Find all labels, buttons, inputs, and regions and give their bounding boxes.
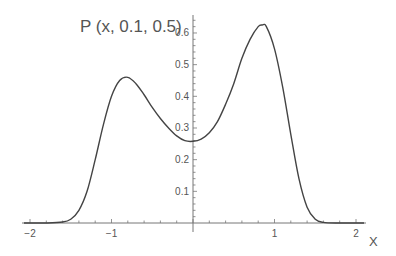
x-tick-label: 2 xyxy=(353,228,359,239)
y-tick-label: 0.3 xyxy=(175,122,189,133)
probability-curve xyxy=(24,24,364,223)
y-tick-label: 0.5 xyxy=(175,59,189,70)
y-tick-label: 0.2 xyxy=(175,154,189,165)
x-tick-label: −2 xyxy=(24,228,36,239)
x-tick-label: 1 xyxy=(272,228,278,239)
axes: −2−1120.10.20.30.40.50.6 xyxy=(22,15,366,239)
y-tick-label: 0.4 xyxy=(175,91,189,102)
x-tick-label: −1 xyxy=(106,228,118,239)
y-tick-label: 0.1 xyxy=(175,186,189,197)
chart: −2−1120.10.20.30.40.50.6 P (x, 0.1, 0.5)… xyxy=(0,0,396,256)
chart-title: P (x, 0.1, 0.5) xyxy=(80,17,182,36)
x-axis-label: X xyxy=(369,234,378,249)
